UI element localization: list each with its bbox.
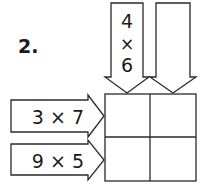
grid-cell-r2-c2[interactable] [151, 138, 195, 180]
column-arrow-1-op: × [120, 34, 134, 54]
row-arrow-1-label: 3 × 7 [32, 106, 84, 128]
grid-cell-r2-c1[interactable] [106, 138, 149, 180]
multiplication-grid-figure: 2. 4 × 6 3 × 7 9 × 5 [0, 0, 208, 195]
grid-cell-r1-c1[interactable] [106, 95, 149, 136]
column-arrow-1-bottom: 6 [121, 54, 133, 76]
problem-number: 2. [18, 35, 38, 57]
column-arrow-1-top: 4 [121, 10, 133, 32]
column-arrow-2 [150, 3, 196, 93]
grid-cell-r1-c2[interactable] [151, 95, 195, 136]
row-arrow-2-label: 9 × 5 [32, 150, 84, 172]
